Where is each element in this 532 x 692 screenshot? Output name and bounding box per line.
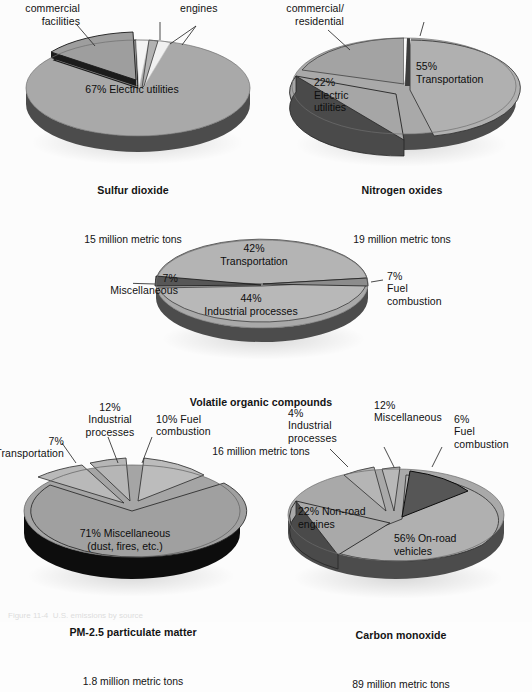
chart-title: Sulfur dioxide <box>33 184 233 197</box>
label-transportation: 7% Transportation <box>0 435 64 460</box>
label-fuel-combustion: 10% Fuel combustion <box>156 413 256 438</box>
chart-volatile-organic-compounds: 7% Miscellaneous 7% Fuel combustion 42% … <box>133 222 399 387</box>
label-fuel-combustion: 7% Fuel combustion <box>387 270 483 307</box>
figure-footer-ghost-text: Figure 11-4 U.S. emissions by source <box>8 611 143 620</box>
label-industrial-commercial-residential: Industrial commercial/ residential <box>258 0 344 27</box>
slice-label-electric-utilities: 67% Electric utilities <box>52 83 212 96</box>
slice-label-transportation: 42% Transportation <box>189 242 319 267</box>
label-industrial-processes: 12% Industrial processes <box>68 401 152 438</box>
label-miscellaneous: 6% Fuel combustion <box>454 413 532 450</box>
slice-label-non-road-engines: 22% Non-road engines <box>298 505 408 530</box>
chart-carbon-monoxide: 4% Industrial processes 12% Miscellaneou… <box>266 405 532 620</box>
label-fuel-combustion: 4% Industrial processes <box>288 407 372 444</box>
chart-title: Carbon monoxide <box>296 629 506 642</box>
label-industrial-processes: 12% Miscellaneous <box>374 399 456 424</box>
slice-label-miscellaneous: 71% Miscellaneous (dust, fires, etc.) <box>40 527 210 552</box>
label-miscellaneous: Miscellaneous <box>410 0 530 2</box>
chart-subtitle: 1.8 million metric tons <box>28 675 238 688</box>
chart-subtitle: 89 million metric tons <box>296 678 506 691</box>
slice-label-industrial-processes: 44% Industrial processes <box>175 292 327 317</box>
slice-label-on-road-vehicles: 56% On-road vehicles <box>394 532 510 557</box>
caption-carbon-monoxide: Carbon monoxide 89 million metric tons <box>296 593 506 692</box>
caption-pm25: PM-2.5 particulate matter 1.8 million me… <box>28 590 238 692</box>
chart-sulfur-dioxide: Industrial and commercial facilities All… <box>0 0 266 200</box>
slice-label-transportation: 55% Transportation <box>416 60 520 85</box>
chart-pm25-particulate-matter: 7% Transportation 12% Industrial process… <box>0 405 266 620</box>
chart-title: PM-2.5 particulate matter <box>28 626 238 639</box>
label-miscellaneous: 7% Miscellaneous <box>0 272 178 297</box>
slice-label-electric-utilities: 22% Electric utilities <box>314 76 392 114</box>
chart-title: Nitrogen oxides <box>302 184 502 197</box>
label-non-road-engines: non-road engines <box>180 0 260 15</box>
chart-nitrogen-oxides: Industrial commercial/ residential Misce… <box>266 0 532 200</box>
label-industrial-commercial-facilities: Industrial and commercial facilities <box>0 0 80 27</box>
